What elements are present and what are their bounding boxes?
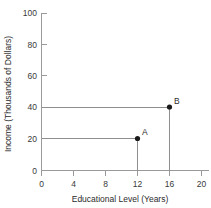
y-tick-label-0: 0 — [32, 166, 37, 176]
y-axis-title: Income (Thousands of Dollars) — [3, 36, 13, 152]
data-point-a-label: A — [142, 127, 148, 137]
x-tick-label-0: 0 — [39, 179, 44, 189]
data-point-b-label: B — [174, 96, 180, 106]
y-tick-label-80: 80 — [28, 40, 38, 50]
x-axis-title: Educational Level (Years) — [72, 194, 169, 204]
scatter-plot: 100 80 60 40 20 0 0 4 8 12 16 20 A B Edu… — [0, 0, 211, 208]
x-tick-label-20: 20 — [197, 179, 207, 189]
x-tick-label-4: 4 — [71, 179, 76, 189]
y-tick-label-20: 20 — [28, 134, 38, 144]
x-tick-label-12: 12 — [133, 179, 143, 189]
y-tick-label-40: 40 — [28, 102, 38, 112]
data-point-a[interactable] — [135, 136, 140, 141]
data-point-b[interactable] — [167, 104, 172, 109]
y-tick-label-60: 60 — [28, 71, 38, 81]
x-tick-label-16: 16 — [165, 179, 175, 189]
x-tick-label-8: 8 — [103, 179, 108, 189]
chart-container: 100 80 60 40 20 0 0 4 8 12 16 20 A B Edu… — [0, 0, 211, 208]
y-tick-label-100: 100 — [23, 8, 37, 18]
